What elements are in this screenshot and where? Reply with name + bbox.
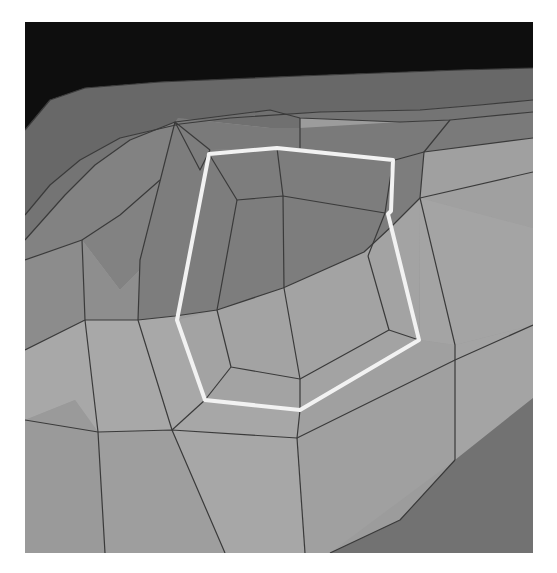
mesh-render-viewport <box>0 0 557 573</box>
mesh-render <box>0 0 557 573</box>
mesh-scene <box>25 22 533 553</box>
